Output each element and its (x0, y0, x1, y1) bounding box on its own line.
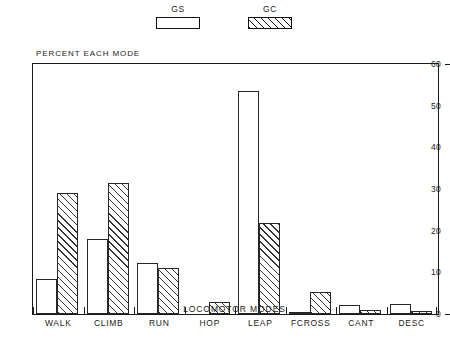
x-axis-tick-label: LEAP (235, 318, 286, 328)
bar-group (235, 64, 286, 314)
bar-group (33, 64, 84, 314)
bar-group (134, 64, 185, 314)
bar-group (185, 64, 236, 314)
bar-group (286, 64, 337, 314)
bar-leap-gc (259, 223, 280, 314)
bar-climb-gc (108, 183, 129, 314)
x-axis-tick-label: CANT (336, 318, 387, 328)
bar-series-container: WALKCLIMBRUNHOPLEAPFCROSSCANTDESC (33, 64, 437, 314)
x-axis-tick-label: HOP (185, 318, 236, 328)
bar-climb-gs (87, 239, 108, 314)
chart-title: PERCENT EACH MODE (36, 49, 140, 58)
x-axis-tick-label: DESC (387, 318, 438, 328)
legend-label-gs: GS (155, 4, 201, 14)
x-axis-tick-label: WALK (33, 318, 84, 328)
bar-leap-gs (238, 91, 259, 314)
chart-legend: GS GC (0, 0, 450, 40)
bar-group (84, 64, 135, 314)
y-axis-tick-mark (445, 64, 450, 65)
x-axis-title: LOCOMOTOR MODES (32, 304, 437, 314)
bar-group (336, 64, 387, 314)
legend-entry-gs: GS (155, 4, 201, 29)
x-axis-tick-label: FCROSS (286, 318, 337, 328)
bar-chart: PERCENT EACH MODE 0102030405060 WALKCLIM… (0, 38, 450, 347)
y-axis-tick-mark (445, 314, 450, 315)
open-rectangle-swatch (156, 17, 200, 29)
hatched-rectangle-swatch (248, 17, 292, 29)
legend-label-gc: GC (247, 4, 293, 14)
bar-walk-gc (57, 193, 78, 314)
legend-entry-gc: GC (247, 4, 293, 29)
x-axis-tick-label: RUN (134, 318, 185, 328)
bar-group (387, 64, 438, 314)
x-axis-tick-label: CLIMB (84, 318, 135, 328)
